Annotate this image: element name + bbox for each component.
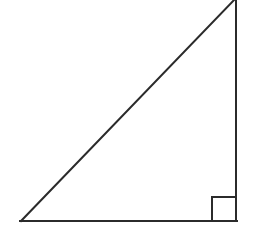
right-triangle-diagram xyxy=(0,0,256,239)
figure-canvas xyxy=(0,0,256,239)
